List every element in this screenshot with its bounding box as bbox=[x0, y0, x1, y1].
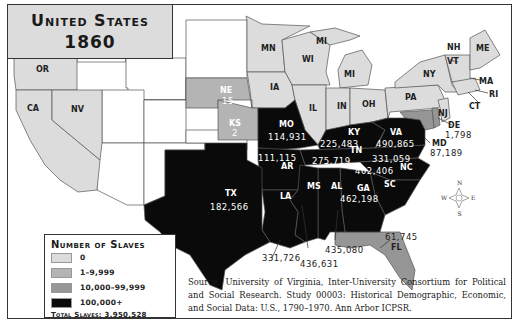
label-ME: ME bbox=[476, 44, 489, 53]
territory-colorado bbox=[144, 100, 186, 143]
value-NE: 15 bbox=[222, 96, 234, 106]
value-DE: 1,798 bbox=[445, 130, 472, 140]
label-WI: WI bbox=[302, 55, 314, 64]
label-TX: TX bbox=[225, 189, 237, 198]
legend-swatch-high bbox=[51, 298, 72, 308]
state-OR bbox=[14, 58, 77, 90]
source-citation: Source: University of Virginia, Inter-Un… bbox=[188, 276, 506, 315]
legend-total: Total Slaves: 3,950,528 bbox=[51, 311, 169, 319]
value-MO: 114,931 bbox=[268, 132, 307, 142]
value-MD: 87,189 bbox=[430, 148, 463, 158]
label-NE: NE bbox=[220, 86, 232, 95]
label-RI: RI bbox=[489, 90, 498, 99]
value-TX: 182,566 bbox=[210, 202, 249, 212]
legend-label: 100,000+ bbox=[80, 298, 123, 307]
label-NV: NV bbox=[71, 105, 85, 114]
label-NJ: NJ bbox=[438, 109, 448, 118]
title-year: 1860 bbox=[8, 32, 172, 52]
value-LA: 331,726 bbox=[262, 253, 301, 263]
label-IA: IA bbox=[270, 83, 280, 92]
title-region: United States bbox=[8, 11, 172, 30]
label-AR: AR bbox=[281, 162, 293, 171]
label-DE: DE bbox=[448, 121, 460, 130]
label-CA: CA bbox=[27, 104, 40, 113]
legend-label: 0 bbox=[80, 253, 86, 262]
value-GA: 462,198 bbox=[340, 194, 379, 204]
territory-new-mexico bbox=[97, 143, 144, 205]
legend-label: 10,000–99,999 bbox=[80, 283, 146, 292]
value-SC: 402,406 bbox=[355, 166, 394, 176]
compass-w: W bbox=[441, 194, 448, 201]
legend-item-1: 1–9,999 bbox=[51, 265, 169, 280]
legend-item-2: 10,000–99,999 bbox=[51, 280, 169, 295]
territory-utah bbox=[102, 90, 144, 143]
label-MO: MO bbox=[279, 120, 294, 129]
legend-item-3: 100,000+ bbox=[51, 295, 169, 310]
value-FL: 61,745 bbox=[385, 232, 418, 242]
label-OR: OR bbox=[36, 65, 49, 74]
label-NY: NY bbox=[423, 70, 436, 79]
legend-item-0: 0 bbox=[51, 250, 169, 265]
map-title-box: United States 1860 bbox=[7, 4, 173, 59]
label-IN: IN bbox=[337, 102, 347, 111]
compass-n: N bbox=[457, 179, 462, 186]
label-MS: MS bbox=[307, 182, 321, 191]
legend-swatch-mid bbox=[51, 283, 72, 293]
label-TN: TN bbox=[350, 146, 362, 155]
value-VA: 490,865 bbox=[376, 139, 415, 149]
label-SC: SC bbox=[384, 180, 396, 189]
label-VT: VT bbox=[447, 57, 459, 66]
label-CT: CT bbox=[469, 102, 481, 111]
compass-e: E bbox=[471, 194, 475, 201]
state-MI bbox=[338, 50, 372, 88]
territory-northwest bbox=[186, 20, 247, 78]
compass-rose-icon: N S E W bbox=[441, 179, 475, 217]
legend-swatch-zero bbox=[51, 253, 72, 263]
legend: Number of Slaves 0 1–9,999 10,000–99,999… bbox=[44, 234, 176, 318]
label-KY: KY bbox=[348, 128, 360, 137]
label-MD: MD bbox=[432, 139, 447, 148]
label-MI: MI bbox=[344, 70, 355, 79]
label-KS: KS bbox=[229, 119, 241, 128]
label-NH: NH bbox=[447, 43, 460, 52]
label-VA: VA bbox=[390, 128, 403, 137]
label-LA: LA bbox=[280, 192, 292, 201]
label-MA: MA bbox=[479, 77, 494, 86]
legend-swatch-low bbox=[51, 268, 72, 278]
legend-label: 1–9,999 bbox=[80, 268, 115, 277]
label-AL: AL bbox=[331, 182, 342, 191]
legend-title: Number of Slaves bbox=[51, 239, 169, 250]
value-AL: 435,080 bbox=[325, 245, 364, 255]
value-KS: 2 bbox=[232, 128, 238, 138]
label-MI-upper: MI bbox=[316, 37, 327, 46]
label-IL: IL bbox=[309, 104, 317, 113]
label-MN: MN bbox=[261, 44, 276, 53]
label-PA: PA bbox=[405, 93, 417, 102]
label-OH: OH bbox=[362, 100, 376, 109]
compass-s: S bbox=[458, 210, 462, 217]
label-FL: FL bbox=[391, 243, 402, 252]
value-TN: 275,719 bbox=[312, 156, 351, 166]
label-GA: GA bbox=[357, 184, 371, 193]
label-NC: NC bbox=[400, 163, 413, 172]
value-MS: 436,631 bbox=[300, 259, 339, 269]
